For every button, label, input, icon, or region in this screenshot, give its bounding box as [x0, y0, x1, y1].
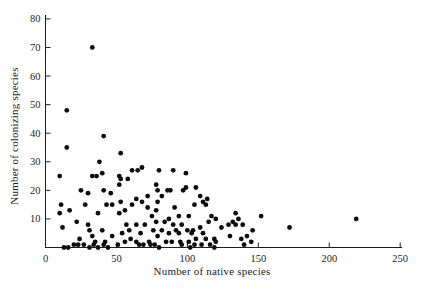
data-point: [157, 245, 162, 250]
data-point: [138, 231, 143, 236]
data-point: [79, 188, 84, 193]
data-point: [118, 151, 123, 156]
data-point: [64, 145, 69, 150]
data-point: [151, 228, 156, 233]
data-point: [110, 202, 115, 207]
data-point: [172, 205, 177, 210]
data-point: [245, 234, 250, 239]
data-point: [57, 174, 62, 179]
x-tick-label: 150: [250, 253, 266, 264]
data-point: [192, 242, 197, 247]
data-point: [239, 237, 244, 242]
data-point: [171, 222, 176, 227]
data-point: [137, 242, 142, 247]
data-point: [250, 228, 255, 233]
data-point: [124, 222, 129, 227]
data-point: [167, 231, 172, 236]
data-point: [106, 245, 111, 250]
data-point: [74, 219, 79, 224]
data-point: [233, 211, 238, 216]
data-point: [212, 245, 217, 250]
data-point: [155, 188, 160, 193]
data-point: [128, 237, 133, 242]
data-point: [123, 208, 128, 213]
data-point: [154, 219, 159, 224]
data-point: [219, 225, 224, 230]
data-point: [94, 174, 99, 179]
data-point: [176, 214, 181, 219]
data-point: [162, 219, 167, 224]
data-point: [205, 197, 210, 202]
data-point: [97, 159, 102, 164]
data-point: [123, 239, 128, 244]
data-point: [168, 188, 173, 193]
data-point: [130, 168, 135, 173]
data-point: [140, 165, 145, 170]
data-point: [57, 211, 62, 216]
data-point: [150, 214, 155, 219]
data-point: [117, 211, 122, 216]
data-point: [188, 245, 193, 250]
data-point: [208, 242, 213, 247]
data-point: [209, 214, 214, 219]
data-point: [179, 222, 184, 227]
y-tick-label: 80: [30, 13, 41, 24]
x-tick-label: 50: [111, 253, 122, 264]
x-axis-title: Number of native species: [0, 265, 424, 277]
data-point: [127, 228, 132, 233]
data-point: [157, 168, 162, 173]
data-point: [169, 239, 174, 244]
data-point: [354, 217, 359, 222]
data-point: [141, 242, 146, 247]
data-point: [86, 222, 91, 227]
data-point: [96, 211, 101, 216]
y-tick-label: 20: [30, 185, 41, 196]
data-point: [198, 225, 203, 230]
data-point: [71, 242, 76, 247]
data-point: [134, 197, 139, 202]
data-point: [233, 222, 238, 227]
data-point: [184, 185, 189, 190]
data-point: [118, 199, 123, 204]
data-point: [159, 194, 164, 199]
data-point: [145, 205, 150, 210]
data-point: [155, 234, 160, 239]
data-point: [104, 202, 109, 207]
data-point: [117, 182, 122, 187]
data-point: [60, 225, 65, 230]
data-point: [171, 168, 176, 173]
data-point: [192, 202, 197, 207]
data-point: [249, 239, 254, 244]
data-point: [96, 245, 101, 250]
data-point: [198, 194, 203, 199]
data-point: [140, 199, 145, 204]
y-tick-label: 30: [30, 156, 41, 167]
data-point: [87, 245, 92, 250]
x-tick-label: 100: [180, 253, 196, 264]
data-point: [193, 237, 198, 242]
data-point: [154, 182, 159, 187]
data-point: [148, 242, 153, 247]
scatter-figure: 1020304050607080050100150200250 Number o…: [0, 0, 424, 291]
data-point: [145, 194, 150, 199]
data-point: [108, 191, 113, 196]
data-point: [213, 217, 218, 222]
data-point: [287, 225, 292, 230]
data-point: [186, 214, 191, 219]
data-point: [100, 171, 105, 176]
data-point: [179, 242, 184, 247]
data-point: [101, 242, 106, 247]
data-point: [90, 45, 95, 50]
data-point: [176, 231, 181, 236]
data-point: [76, 242, 81, 247]
data-point: [125, 177, 130, 182]
data-point: [154, 208, 159, 213]
data-point: [91, 242, 96, 247]
data-point: [236, 217, 241, 222]
data-point: [199, 242, 204, 247]
data-point: [100, 228, 105, 233]
scatter-plot: 1020304050607080050100150200250: [0, 0, 424, 291]
data-point: [87, 228, 92, 233]
data-point: [90, 174, 95, 179]
data-point: [206, 219, 211, 224]
